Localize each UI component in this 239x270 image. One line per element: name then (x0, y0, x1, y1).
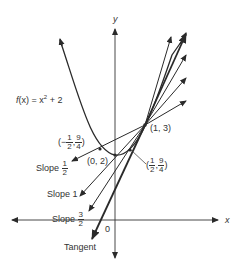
slope-one-label: Slope 1 (47, 190, 78, 199)
x-axis-label: x (225, 216, 230, 225)
point-label-1-3: (1, 3) (150, 124, 171, 133)
leader-line (131, 150, 146, 164)
tangent-label: Tangent (64, 243, 96, 252)
slope-three-halves-label: Slope 32 (52, 211, 84, 228)
point-1-3 (143, 123, 147, 127)
slope-half-label: Slope 12 (36, 160, 68, 177)
point-label-pos-half: (12,94) (146, 157, 167, 174)
tangent-line (92, 34, 186, 239)
y-axis-label: y (113, 15, 118, 24)
origin-label: 0 (105, 225, 110, 234)
point-neg-half (98, 147, 101, 150)
function-label: f(x) = x2 + 2 (16, 94, 62, 105)
diagram-canvas (0, 0, 239, 270)
point-label-0-2: (0, 2) (87, 157, 108, 166)
point-0-2 (113, 153, 116, 156)
point-label-neg-half: (−12,94) (58, 134, 85, 151)
